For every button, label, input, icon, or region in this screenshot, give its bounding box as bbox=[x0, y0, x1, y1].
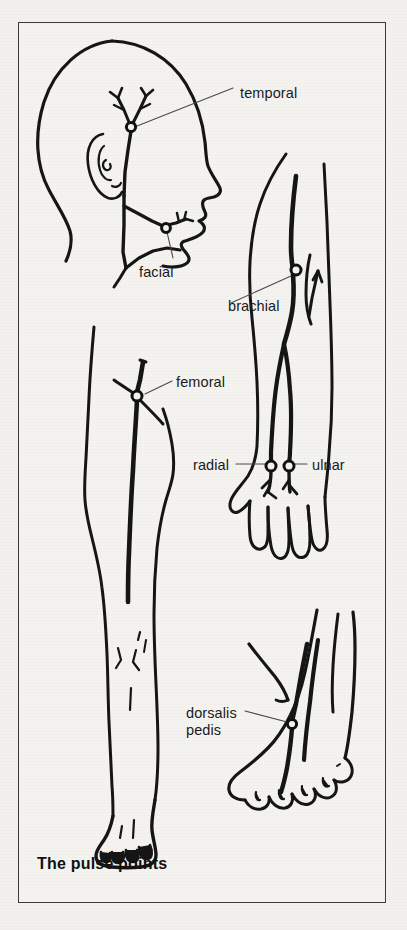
label-ulnar: ulnar bbox=[312, 457, 345, 474]
label-temporal: temporal bbox=[240, 85, 297, 102]
label-femoral: femoral bbox=[176, 374, 225, 391]
label-dorsalis-pedis: dorsalis pedis bbox=[186, 705, 237, 738]
label-facial: facial bbox=[139, 264, 173, 281]
label-radial: radial bbox=[193, 457, 229, 474]
figure-page: temporal facial brachial femoral radial … bbox=[0, 0, 407, 930]
label-brachial: brachial bbox=[228, 298, 280, 315]
figure-caption: The pulse points bbox=[37, 855, 167, 873]
